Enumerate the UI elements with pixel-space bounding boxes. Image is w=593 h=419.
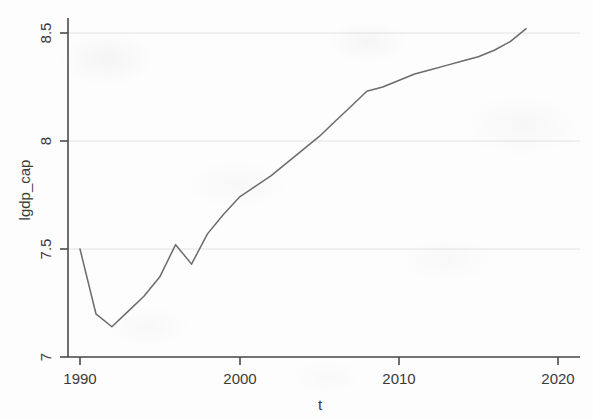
line-chart: 8.5 8 7.5 7 lgdp_cap 1990 2000 2010 2020… bbox=[0, 0, 593, 419]
series-group bbox=[80, 29, 526, 327]
chart-plot-area: 8.5 8 7.5 7 lgdp_cap 1990 2000 2010 2020… bbox=[0, 0, 593, 419]
y-tick-label-8: 8 bbox=[37, 137, 54, 145]
series-line-lgdp-cap bbox=[80, 29, 526, 327]
x-axis-title: t bbox=[318, 396, 323, 413]
y-axis-title: lgdp_cap bbox=[16, 160, 33, 221]
x-tick-label-1990: 1990 bbox=[63, 370, 96, 387]
y-tick-label-7.5: 7.5 bbox=[37, 239, 54, 260]
y-tick-label-7: 7 bbox=[37, 353, 54, 361]
y-tick-label-8.5: 8.5 bbox=[37, 23, 54, 44]
gridlines bbox=[68, 33, 580, 357]
x-tick-label-2020: 2020 bbox=[541, 370, 574, 387]
y-axis: 8.5 8 7.5 7 lgdp_cap bbox=[16, 18, 68, 361]
x-tick-label-2010: 2010 bbox=[382, 370, 415, 387]
x-tick-label-2000: 2000 bbox=[223, 370, 256, 387]
x-axis: 1990 2000 2010 2020 t bbox=[63, 357, 580, 413]
